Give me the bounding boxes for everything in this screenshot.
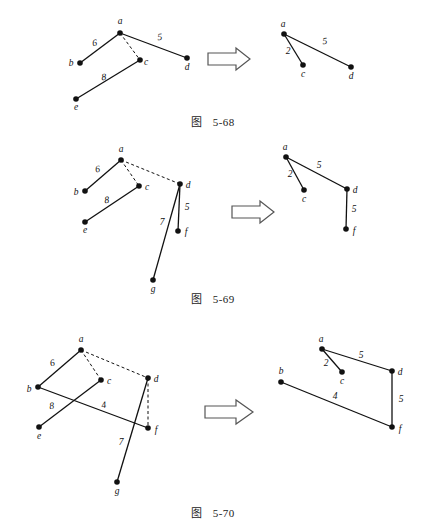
node-b[interactable] xyxy=(278,379,284,385)
edge-a-d xyxy=(120,33,187,58)
weight-a-d: 5 xyxy=(157,32,163,42)
node-f[interactable] xyxy=(343,226,349,232)
weight-c-e: 8 xyxy=(101,72,107,82)
node-label-d: d xyxy=(154,374,159,384)
edge-a-c-dashed xyxy=(121,160,139,186)
node-c[interactable] xyxy=(137,57,143,63)
node-a[interactable] xyxy=(118,157,124,163)
implies-arrow-5-68 xyxy=(208,48,250,70)
node-label-c: c xyxy=(301,69,306,79)
node-a[interactable] xyxy=(281,31,287,37)
edge-d-f xyxy=(346,189,347,229)
weight-a-c: 2 xyxy=(324,358,329,368)
node-label-d: d xyxy=(398,367,403,377)
weight-c-e: 8 xyxy=(104,195,110,206)
figure-5-68: 6 5 8 a b c d e xyxy=(0,0,426,140)
edge-a-c-dashed xyxy=(81,350,101,380)
caption-prefix: 图 xyxy=(191,293,203,305)
node-label-d: d xyxy=(185,62,190,72)
figure-5-69-canvas: 6 8 5 7 a b c d e f g xyxy=(0,140,426,312)
node-d[interactable] xyxy=(344,186,350,192)
edge-a-b xyxy=(80,33,120,63)
node-label-e: e xyxy=(83,225,87,235)
caption-prefix: 图 xyxy=(191,116,203,128)
node-a[interactable] xyxy=(319,346,325,352)
node-label-c: c xyxy=(340,376,345,386)
implies-arrow-5-69 xyxy=(232,201,274,223)
node-label-b: b xyxy=(69,58,74,68)
edge-b-f xyxy=(281,382,392,427)
node-g[interactable] xyxy=(150,277,156,283)
node-d[interactable] xyxy=(348,64,354,70)
figure-caption-5-69: 图5-69 xyxy=(0,290,426,306)
caption-prefix: 图 xyxy=(191,507,203,519)
node-label-a: a xyxy=(119,144,124,154)
edge-a-d-dashed xyxy=(121,160,180,184)
caption-number: 5-70 xyxy=(213,507,235,519)
weight-a-d: 5 xyxy=(317,160,322,170)
weight-a-b: 6 xyxy=(49,358,56,369)
node-b[interactable] xyxy=(35,384,41,390)
node-f[interactable] xyxy=(389,424,395,430)
node-c[interactable] xyxy=(301,187,307,193)
node-e[interactable] xyxy=(82,219,88,225)
node-f[interactable] xyxy=(145,425,151,431)
weight-a-b: 6 xyxy=(94,164,101,175)
edge-c-e xyxy=(76,60,140,99)
node-e[interactable] xyxy=(36,424,42,430)
caption-number: 5-68 xyxy=(213,116,235,128)
node-a[interactable] xyxy=(283,154,289,160)
node-b[interactable] xyxy=(77,60,83,66)
node-c[interactable] xyxy=(339,369,345,375)
node-label-a: a xyxy=(281,19,286,29)
node-label-c: c xyxy=(144,57,149,67)
node-f[interactable] xyxy=(175,228,181,234)
node-label-g: g xyxy=(115,486,120,496)
node-d[interactable] xyxy=(389,368,395,374)
graph-left-5-68: 6 5 8 a b c d e xyxy=(69,16,190,112)
node-d[interactable] xyxy=(177,181,183,187)
figure-caption-5-70: 图5-70 xyxy=(0,504,426,520)
weight-b-f: 4 xyxy=(101,400,107,411)
node-e[interactable] xyxy=(73,96,79,102)
weight-a-d: 5 xyxy=(359,350,364,360)
weight-a-d: 5 xyxy=(322,36,328,46)
node-g[interactable] xyxy=(114,479,120,485)
edge-a-d-dashed xyxy=(81,350,148,378)
weight-a-c: 2 xyxy=(288,169,293,179)
node-label-a: a xyxy=(319,334,324,344)
node-label-f: f xyxy=(399,424,403,434)
node-label-d: d xyxy=(186,180,191,190)
node-label-e: e xyxy=(37,431,41,441)
edge-a-d xyxy=(322,349,392,371)
edge-a-b xyxy=(85,160,121,191)
caption-number: 5-69 xyxy=(213,293,235,305)
figure-5-70-canvas: 6 8 4 7 a b c d e f g xyxy=(0,312,426,531)
node-label-b: b xyxy=(74,187,79,197)
node-a[interactable] xyxy=(78,347,84,353)
node-label-b: b xyxy=(27,384,32,394)
node-d[interactable] xyxy=(145,375,151,381)
weight-b-f: 4 xyxy=(333,391,338,401)
node-d[interactable] xyxy=(184,55,190,61)
figure-caption-5-68: 图5-68 xyxy=(0,113,426,129)
graph-right-5-68: 2 5 a c d xyxy=(281,19,354,81)
node-label-a: a xyxy=(79,334,84,344)
node-label-d: d xyxy=(349,71,354,81)
graph-right-5-70: 2 5 4 5 a b c d f xyxy=(278,334,403,434)
node-label-a: a xyxy=(283,142,288,152)
weight-d-f: 5 xyxy=(185,202,190,212)
node-c[interactable] xyxy=(300,62,306,68)
weight-d-g: 7 xyxy=(119,437,125,447)
node-label-c: c xyxy=(107,376,112,386)
edge-d-g xyxy=(117,378,148,482)
node-label-a: a xyxy=(118,16,123,26)
node-c[interactable] xyxy=(136,183,142,189)
node-b[interactable] xyxy=(82,188,88,194)
node-a[interactable] xyxy=(117,30,123,36)
node-c[interactable] xyxy=(98,377,104,383)
node-label-b: b xyxy=(279,366,284,376)
node-label-d: d xyxy=(353,185,358,195)
weight-d-g: 7 xyxy=(160,217,166,227)
node-label-e: e xyxy=(74,102,78,112)
